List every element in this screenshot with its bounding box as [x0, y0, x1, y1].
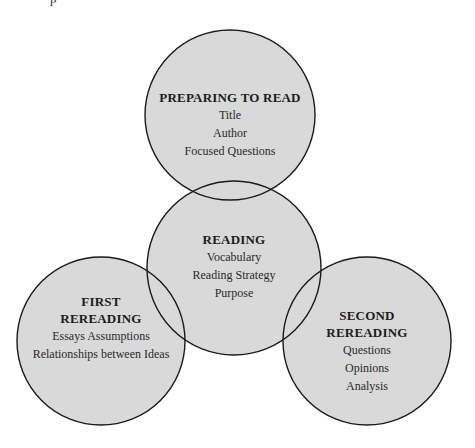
circle-first-rereading — [17, 257, 185, 425]
circle-preparing-to-read — [145, 30, 315, 200]
circle-second-rereading — [283, 257, 451, 425]
venn-diagram — [0, 0, 475, 448]
circle-fills — [17, 30, 451, 425]
